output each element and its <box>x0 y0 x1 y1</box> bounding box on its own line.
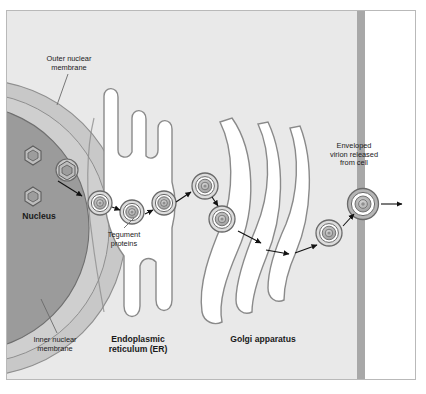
virion-egress-diagram: Outer nuclear membrane Nucleus Tegument … <box>0 0 426 394</box>
arrow-er-2 <box>176 192 191 202</box>
label-endoplasmic-reticulum: Endoplasmic reticulum (ER) <box>92 335 184 355</box>
label-enveloped-virion-released: Enveloped virion released from cell <box>313 142 395 168</box>
capsid-at-inner-membrane <box>56 159 78 181</box>
arrow-to-membrane <box>343 214 354 226</box>
virion-golgi-entry <box>209 206 235 232</box>
label-nucleus: Nucleus <box>8 212 70 222</box>
virion-er-lumen <box>152 191 176 215</box>
label-tegument-proteins: Tegument proteins <box>92 231 156 248</box>
label-inner-nuclear-membrane: Inner nuclear membrane <box>20 336 90 353</box>
label-outer-nuclear-membrane: Outer nuclear membrane <box>26 55 112 72</box>
virion-perinuclear <box>88 191 112 215</box>
leader-outer-nuclear-membrane <box>57 74 68 105</box>
virion-budding <box>348 189 379 220</box>
label-golgi-apparatus: Golgi apparatus <box>216 335 310 345</box>
arrow-er-to-golgi <box>212 197 218 206</box>
virion-er-exit <box>192 173 218 199</box>
virion-post-golgi <box>316 220 342 246</box>
